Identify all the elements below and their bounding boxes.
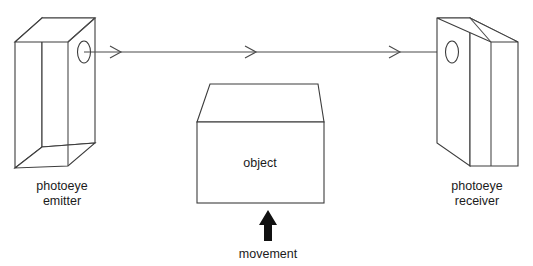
object-box-group: object [197,84,324,203]
receiver-lens-icon [446,41,459,63]
movement-arrow-icon [259,210,277,241]
emitter-label-line1: photoeye [36,179,87,193]
object-top-face [197,84,324,122]
receiver-label-line1: photoeye [451,179,502,193]
object-label: object [243,156,277,170]
receiver-front-face [437,18,470,166]
movement-arrow-group: movement [239,210,298,261]
diagram-root: photoeye emitter object movement [0,0,533,266]
photoeye-diagram-canvas: photoeye emitter object movement [0,0,533,266]
photoeye-receiver-group: photoeye receiver [437,18,518,208]
photoeye-emitter-group: photoeye emitter [15,18,95,208]
movement-label: movement [239,247,298,261]
light-beam-group [84,46,452,58]
receiver-label-line2: receiver [455,194,499,208]
emitter-label-line2: emitter [43,194,81,208]
